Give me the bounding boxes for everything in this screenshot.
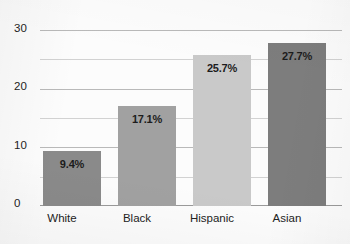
x-axis-label-asian: Asian xyxy=(247,212,327,224)
plot-area: 9.4% 17.1% 25.7% 27.7% xyxy=(40,30,342,206)
bar-value-asian: 27.7% xyxy=(268,50,326,62)
bar-value-white: 9.4% xyxy=(43,158,101,170)
bar-value-black: 17.1% xyxy=(118,113,176,125)
bars-layer: 9.4% 17.1% 25.7% 27.7% xyxy=(40,30,342,206)
bar-hispanic[interactable]: 25.7% xyxy=(193,55,251,206)
y-axis-tick-20: 20 xyxy=(14,80,38,92)
x-axis-label-hispanic: Hispanic xyxy=(172,212,252,224)
x-axis-label-black: Black xyxy=(97,212,177,224)
x-axis-label-white: White xyxy=(22,212,102,224)
bar-black[interactable]: 17.1% xyxy=(118,106,176,206)
y-axis-tick-0: 0 xyxy=(14,197,38,209)
bar-white[interactable]: 9.4% xyxy=(43,151,101,206)
bar-chart: 30 20 10 0 9.4% 17.1% 25.7% 27.7% xyxy=(0,0,350,244)
bar-asian[interactable]: 27.7% xyxy=(268,43,326,206)
bar-value-hispanic: 25.7% xyxy=(193,62,251,74)
y-axis-tick-30: 30 xyxy=(14,22,38,34)
y-axis-tick-10: 10 xyxy=(14,139,38,151)
